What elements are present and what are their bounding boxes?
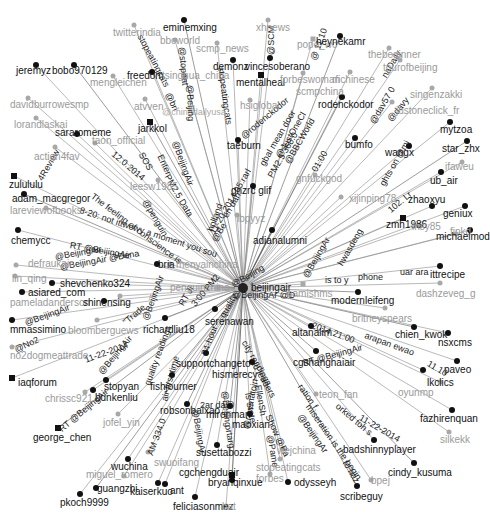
edge-label: uar ara — [400, 267, 429, 277]
node-label-bloomberguews: bloomberguews — [68, 325, 139, 336]
node-label-xijinping78: xijinping78 — [349, 193, 396, 204]
node-label-miguel_romero: miguel_romero — [86, 469, 153, 480]
node-label-taeburn: taeburn — [227, 140, 261, 151]
node-odysseyh[interactable] — [285, 479, 291, 485]
node-label-heynekamr: heynekamr — [316, 36, 365, 47]
node-label-jofel_yin: jofel_yin — [103, 417, 140, 428]
node-label-ub_air: ub_air — [430, 175, 458, 186]
node-label-paveo: paveo — [444, 364, 471, 375]
node-label-no2dogmeattrade: no2dogmeattrade — [10, 350, 88, 361]
node-label-supportchangeto: supportchangeto — [176, 358, 251, 369]
node-label-eminemxing: eminemxing — [163, 22, 217, 33]
node-label-singenzakki: singenzakki — [410, 89, 462, 100]
node-label-davidburrowesmp: davidburrowesmp — [10, 99, 89, 110]
node-label-gnfuckgod: gnfuckgod — [296, 173, 342, 184]
node-label-vincesoberano: vincesoberano — [245, 61, 310, 72]
node-label-bpej: bpej — [371, 475, 390, 486]
node-hamishms[interactable] — [301, 282, 306, 287]
node-label-bumfo: bumfo — [345, 139, 373, 150]
node-label-hamishms: hamishms — [287, 288, 333, 299]
node-label-teon_fan: teon_fan — [319, 389, 358, 400]
node-label-susettabozzi: susettabozzi — [196, 447, 252, 458]
node-label-richardliu18: richardliu18 — [143, 324, 195, 335]
node-label-twitterindia: twitterindia — [113, 27, 161, 38]
node-jofel_yin[interactable] — [116, 412, 121, 417]
node-label-bunkenliu: bunkenliu — [95, 392, 138, 403]
node-xijinping78[interactable] — [339, 195, 344, 200]
node-label-ant: ant — [170, 485, 184, 496]
node-label-menyainchina: menyainchina — [176, 259, 238, 270]
node-chemycc[interactable] — [15, 227, 21, 233]
node-label-fishjourner: fishjourner — [150, 381, 197, 392]
node-shevchenko324[interactable] — [49, 280, 55, 286]
node-britneyspears[interactable] — [383, 306, 388, 311]
node-label-ittrecipe: ittrecipe — [430, 269, 465, 280]
node-cindy_kusuma[interactable] — [411, 460, 417, 466]
node-label-odysseyh: odysseyh — [294, 477, 336, 488]
node-label-adam_macgregor: adam_macgregor — [12, 193, 90, 204]
node-label-penguinchina: penguinchina — [170, 282, 230, 293]
node-label-maoxian: maoxian — [232, 419, 270, 430]
node-label-oyunmp: oyunmp — [398, 387, 434, 398]
node-label-lareviewofbooks: lareviewofbooks — [10, 205, 82, 216]
node-label-action4fav: action4fav — [34, 151, 80, 162]
node-label-wejchina: wejchina — [277, 445, 316, 456]
node-label-ifaweu: ifaweu — [445, 161, 474, 172]
node-bloomberguews[interactable] — [95, 318, 100, 323]
node-badshinnyplayer[interactable] — [371, 437, 377, 443]
edge-label: is to y — [325, 275, 349, 285]
node-label-chemycc: chemycc — [11, 235, 50, 246]
node-label-scmpchina: scmpchina — [296, 86, 344, 97]
node-label-zulululu: zulululu — [9, 179, 43, 190]
node-lkclics[interactable] — [420, 367, 426, 373]
node-label-beijingair: beijingair — [251, 282, 291, 293]
node-label-dashzeveg_g: dashzeveg_g — [416, 288, 476, 299]
node-label-pkoch9999: pkoch9999 — [60, 497, 109, 508]
node-label-micharmod: michaelmod — [436, 231, 490, 242]
node-label-george_chen: george_chen — [33, 432, 91, 443]
node-label-badshinnyplayer: badshinnyplayer — [343, 444, 416, 455]
node-label-tourofbeijing: tourofbeijing — [383, 62, 437, 73]
node-label-bbcworld: bbcworld — [160, 35, 200, 46]
node-label-geniux: geniux — [443, 208, 472, 219]
node-label-modernleifeng: modernleifeng — [331, 295, 394, 306]
node-label-altanalim: altanalim — [292, 327, 332, 338]
node-label-defraukair: defraukair — [28, 258, 72, 269]
node-adianalumni[interactable] — [269, 227, 275, 233]
node-label-freedom: freedom — [127, 70, 164, 81]
node-label-star_zhx: star_zhx — [442, 143, 480, 154]
node-label-iaqforum: iaqforum — [18, 377, 57, 388]
node-label-taon_official: taon_official — [92, 135, 145, 146]
node-label-leesw1985: leesw1985 — [130, 181, 178, 192]
node-label-silkekk: silkekk — [440, 434, 470, 445]
node-label-bria: bria — [158, 259, 175, 270]
node-label-rfichinese: rfichinese — [332, 74, 375, 85]
node-label-mentalhealth: mentalheal — [236, 77, 285, 88]
node-asiared_com[interactable] — [19, 289, 25, 295]
node-iaqforum[interactable] — [9, 375, 15, 381]
node-label-fazhirenquan: fazhirenquan — [420, 413, 478, 424]
node-label-atvven: atvven — [134, 101, 163, 112]
node-label-bat: bat — [222, 501, 236, 512]
node-label-rodenckodor: rodenckodor — [318, 99, 374, 110]
node-label-tsinghua_china: tsinghua_china — [162, 70, 229, 81]
node-label-wangx: wangx — [385, 147, 414, 158]
node-mmassimino[interactable] — [9, 317, 15, 323]
node-label-hsiglobal: hsiglobal — [240, 100, 279, 111]
node-label-hismerecy: hismerecy — [212, 369, 258, 380]
node-label-nsxcms: nsxcms — [438, 337, 472, 348]
node-label-justoneclick_fr: justoneclick_fr — [396, 105, 459, 116]
node-label-zhaoxyu: zhaoxyu — [408, 194, 445, 205]
node-label-cindy_kusuma: cindy_kusuma — [388, 467, 452, 478]
node-defraukair[interactable] — [14, 263, 19, 268]
node-serenawan[interactable] — [212, 306, 218, 312]
edge-label: phone — [358, 272, 383, 282]
node-label-bryanqinxue: bryanqinxue — [208, 477, 262, 488]
node-feliciasonmez[interactable] — [192, 494, 198, 500]
node-label-adianalumni: adianalumni — [253, 235, 307, 246]
node-label-chrissc921: chrissc921 — [45, 393, 93, 404]
node-richardliu18[interactable] — [162, 315, 168, 321]
node-label-scmp_news: scmp_news — [196, 43, 249, 54]
node-dashzeveg_g[interactable] — [438, 281, 443, 286]
node-label-serenawan: serenawan — [205, 316, 254, 327]
